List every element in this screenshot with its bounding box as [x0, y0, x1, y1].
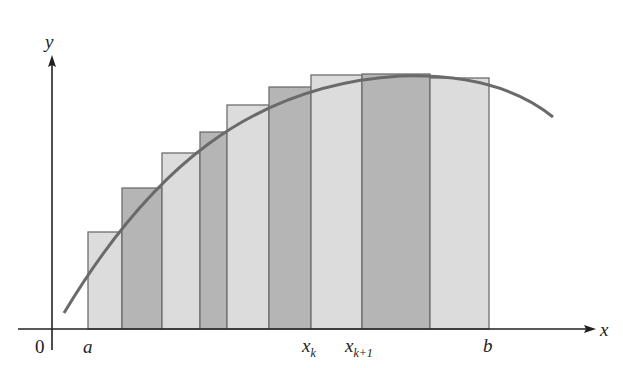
rectangle-4 [200, 132, 227, 329]
rectangle-2 [122, 188, 162, 329]
x-axis-label: x [600, 320, 608, 339]
rectangle-9 [430, 78, 489, 329]
riemann-sum-diagram [0, 0, 623, 368]
rectangle-8 [362, 74, 430, 329]
tick-label-xk1: xk+1 [345, 336, 373, 355]
rectangle-1 [88, 232, 122, 329]
xk1-subscript: k+1 [353, 346, 372, 360]
tick-label-b: b [483, 336, 493, 355]
rectangle-6 [269, 87, 311, 329]
rectangle-5 [227, 105, 269, 329]
rectangle-7 [311, 75, 362, 329]
tick-label-xk: xk [302, 336, 316, 355]
origin-label: 0 [35, 337, 45, 356]
xk-subscript: k [310, 346, 315, 360]
upper-sum-rectangles [88, 74, 489, 329]
tick-label-a: a [83, 337, 93, 356]
y-axis-label: y [45, 32, 53, 51]
